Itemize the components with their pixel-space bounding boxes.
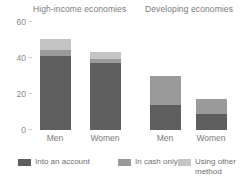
legend-label-account: Into an account xyxy=(35,157,90,167)
y-axis-tick-label-0: 0 xyxy=(8,125,26,135)
bar-segment-other xyxy=(40,39,71,50)
bar-segment-account xyxy=(196,114,227,130)
legend-item-in-cash-only: In cash only xyxy=(118,157,178,167)
y-axis-tick-mark-40 xyxy=(29,57,32,58)
bar-segment-other xyxy=(90,52,121,59)
stacked-bar-chart: High-income economies Developing economi… xyxy=(0,0,242,184)
bar-segment-account xyxy=(150,105,181,130)
panel-title-developing: Developing economies xyxy=(145,4,233,14)
x-axis-label-developing-women: Women xyxy=(183,133,239,143)
bar-segment-cash xyxy=(196,99,227,114)
legend-item-into-an-account: Into an account xyxy=(18,157,90,167)
legend-swatch-icon-account xyxy=(18,159,31,166)
bar-segment-account xyxy=(90,63,121,130)
legend-item-using-other-method: Using other method xyxy=(178,157,236,176)
bar-segment-cash xyxy=(150,76,181,105)
legend-label-cash: In cash only xyxy=(135,157,178,167)
legend-swatch-icon-other xyxy=(178,159,191,166)
legend-label-other: Using other method xyxy=(195,157,236,176)
y-axis-tick-mark-20 xyxy=(29,93,32,94)
legend-swatch-icon-cash xyxy=(118,159,131,166)
chart-legend: Into an account In cash only Using other… xyxy=(0,157,242,184)
panel-title-high-income: High-income economies xyxy=(33,4,126,14)
bar-segment-account xyxy=(40,56,71,130)
x-axis-label-high-income-women: Women xyxy=(77,133,133,143)
bar-developing-women xyxy=(196,99,227,130)
x-axis-label-high-income-men: Men xyxy=(27,133,83,143)
bar-high-income-women xyxy=(90,52,121,130)
bar-developing-men xyxy=(150,76,181,130)
y-axis-tick-mark-60 xyxy=(29,21,32,22)
y-axis-tick-label-60: 60 xyxy=(8,17,26,27)
bar-high-income-men xyxy=(40,39,71,130)
y-axis-tick-label-20: 20 xyxy=(8,89,26,99)
y-axis-tick-mark-0 xyxy=(29,129,32,130)
y-axis-tick-label-40: 40 xyxy=(8,53,26,63)
